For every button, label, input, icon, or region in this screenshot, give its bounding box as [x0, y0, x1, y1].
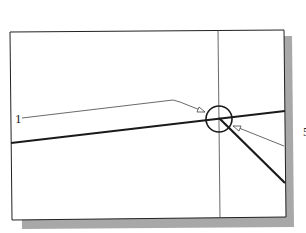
callout-label-right: 5	[303, 124, 306, 139]
callout-label-1: 1	[15, 111, 22, 126]
figure-canvas: 1 5	[0, 0, 306, 233]
viewport-frame	[10, 30, 286, 220]
